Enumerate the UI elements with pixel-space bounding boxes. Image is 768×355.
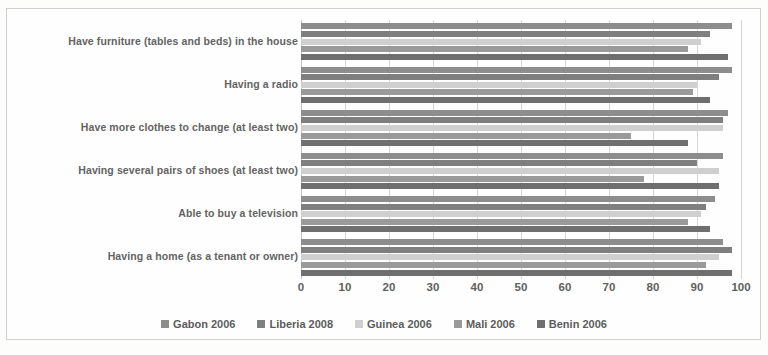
bar: [301, 97, 710, 103]
legend-item[interactable]: Liberia 2008: [257, 318, 333, 330]
category-label: Having several pairs of shoes (at least …: [8, 165, 298, 176]
category-label: Have more clothes to change (at least tw…: [8, 122, 298, 133]
bar: [301, 219, 688, 225]
bar: [301, 125, 723, 131]
bar: [301, 226, 710, 232]
x-tick-label: 30: [427, 281, 440, 293]
x-tick-label: 20: [383, 281, 396, 293]
bar: [301, 46, 688, 52]
legend-item[interactable]: Benin 2006: [537, 318, 607, 330]
legend-swatch-icon: [257, 320, 265, 328]
bar-group: [301, 150, 741, 193]
bar: [301, 89, 693, 95]
bar: [301, 262, 706, 268]
bar: [301, 254, 719, 260]
legend-label: Benin 2006: [549, 318, 607, 330]
bar: [301, 211, 701, 217]
legend-item[interactable]: Mali 2006: [454, 318, 515, 330]
x-axis-tick-labels: 0102030405060708090100: [301, 281, 741, 301]
category-label: Able to buy a television: [8, 208, 298, 219]
bar: [301, 67, 732, 73]
x-tick-label: 50: [515, 281, 528, 293]
bar: [301, 239, 723, 245]
bar: [301, 74, 719, 80]
bar-group: [301, 236, 741, 279]
gridline-100: [741, 20, 742, 279]
bar: [301, 270, 732, 276]
x-tick-label: 100: [731, 281, 750, 293]
bar: [301, 133, 631, 139]
bar: [301, 247, 732, 253]
bar: [301, 153, 723, 159]
x-tick-label: 70: [603, 281, 616, 293]
x-tick-label: 60: [559, 281, 572, 293]
chart-figure: Have furniture (tables and beds) in the …: [0, 0, 768, 355]
bar: [301, 168, 719, 174]
legend-item[interactable]: Guinea 2006: [355, 318, 432, 330]
bar: [301, 110, 728, 116]
bar-group: [301, 63, 741, 106]
bar: [301, 176, 644, 182]
x-tick-label: 40: [471, 281, 484, 293]
legend-item[interactable]: Gabon 2006: [161, 318, 235, 330]
legend-label: Mali 2006: [466, 318, 515, 330]
legend-swatch-icon: [537, 320, 545, 328]
category-label: Having a home (as a tenant or owner): [8, 251, 298, 262]
legend-swatch-icon: [454, 320, 462, 328]
x-tick-label: 90: [691, 281, 704, 293]
bar: [301, 196, 715, 202]
category-label: Have furniture (tables and beds) in the …: [8, 36, 298, 47]
bar-group: [301, 193, 741, 236]
chart-legend: Gabon 2006Liberia 2008Guinea 2006Mali 20…: [0, 318, 768, 330]
legend-label: Guinea 2006: [367, 318, 432, 330]
bar: [301, 82, 697, 88]
bar: [301, 31, 710, 37]
legend-swatch-icon: [355, 320, 363, 328]
x-tick-label: 0: [298, 281, 304, 293]
bar: [301, 160, 697, 166]
legend-label: Gabon 2006: [173, 318, 235, 330]
bar: [301, 183, 719, 189]
bar: [301, 140, 688, 146]
bar: [301, 23, 732, 29]
bar: [301, 39, 701, 45]
bar: [301, 117, 723, 123]
bar: [301, 54, 728, 60]
x-tick-label: 80: [647, 281, 660, 293]
bar-group: [301, 20, 741, 63]
bar-group: [301, 106, 741, 149]
category-label: Having a radio: [8, 79, 298, 90]
bar: [301, 204, 706, 210]
legend-swatch-icon: [161, 320, 169, 328]
plot-area: [301, 20, 741, 279]
x-tick-label: 10: [339, 281, 352, 293]
legend-label: Liberia 2008: [269, 318, 333, 330]
category-axis: Have furniture (tables and beds) in the …: [8, 22, 298, 278]
